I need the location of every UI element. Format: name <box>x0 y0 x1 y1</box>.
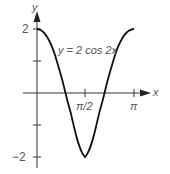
x-axis-label: x <box>152 86 159 98</box>
equation-label: y = 2 cos 2x <box>57 44 118 56</box>
x-axis-arrow-icon <box>140 90 151 97</box>
x-tick-label-pi: π <box>130 100 138 112</box>
x-tick-label-half-pi: π/2 <box>76 100 93 112</box>
y-axis-label: y <box>31 1 39 13</box>
cosine-graph: y x 2 −2 π/2 π y = 2 cos 2x <box>0 0 170 174</box>
y-tick-label-neg2: −2 <box>12 150 26 164</box>
y-tick-label-2: 2 <box>22 22 29 36</box>
